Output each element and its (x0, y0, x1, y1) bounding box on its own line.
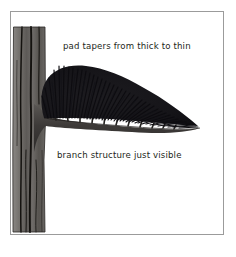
foliage-pad (41, 66, 198, 129)
label-pad-taper: pad tapers from thick to thin (63, 41, 191, 52)
illustration-canvas (0, 0, 236, 257)
figure-root: pad tapers from thick to thin branch str… (0, 0, 236, 257)
label-branch-structure: branch structure just visible (57, 150, 182, 161)
